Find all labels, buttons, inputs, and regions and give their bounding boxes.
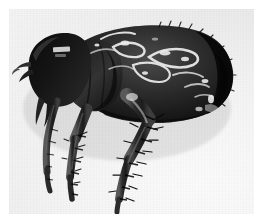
coxa-highlight bbox=[126, 93, 138, 101]
caption-zone bbox=[0, 214, 262, 224]
photomicrograph-image bbox=[9, 9, 254, 214]
flea-specimen bbox=[9, 9, 254, 214]
head-specular-rect bbox=[53, 47, 70, 53]
figure-root bbox=[0, 0, 262, 224]
